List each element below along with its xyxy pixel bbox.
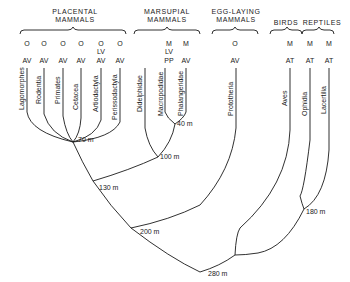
group-label-line: BIRDS — [270, 19, 302, 27]
group-label-line: EGG-LAYING — [208, 8, 264, 16]
brace-reptiles — [302, 27, 334, 34]
taxon-label-didelphidae: Didelphidae — [136, 75, 144, 112]
taxon-label-ophidia: Ophidia — [301, 92, 309, 116]
code-top: M — [178, 40, 194, 48]
group-label-birds: BIRDS — [270, 19, 302, 27]
code-bottom: AV — [112, 57, 128, 65]
code-bottom: AV — [19, 57, 35, 65]
age-label-40m: 40 m — [177, 120, 193, 128]
branch-reptile-to-bird — [235, 209, 304, 255]
code-top: M — [161, 40, 177, 48]
group-label-marsupial: MARSUPIAL MAMMALS — [134, 8, 200, 24]
branch-ophidia — [300, 68, 310, 209]
code-top: O — [73, 40, 89, 48]
group-label-line: MAMMALS — [208, 16, 264, 24]
code-top: O — [227, 40, 243, 48]
code-mid: LV — [93, 48, 109, 56]
brace-birds — [270, 27, 302, 34]
group-label-line: REPTILES — [302, 19, 342, 27]
taxon-label-prototheria: Prototheria — [227, 82, 235, 116]
age-label-280m: 280 m — [208, 270, 227, 278]
group-label-egglaying: EGG-LAYING MAMMALS — [208, 8, 264, 24]
age-label-200m: 200 m — [140, 228, 159, 236]
code-bottom: AV — [55, 57, 71, 65]
branch-placental-to-therian — [73, 142, 93, 181]
taxon-label-macropodidae: Macropodidae — [157, 72, 165, 116]
code-top: O — [36, 40, 52, 48]
code-bottom: PP — [161, 57, 177, 65]
code-top: O — [112, 40, 128, 48]
brace-placental — [20, 27, 126, 34]
taxon-label-rodentia: Rodentia — [35, 76, 43, 104]
code-top: O — [93, 40, 109, 48]
taxon-label-lacertilia: Lacertilia — [320, 86, 328, 114]
group-label-placental: PLACENTAL MAMMALS — [40, 8, 110, 24]
age-label-70m: 70 m — [78, 136, 94, 144]
taxon-label-lagomorphes: Lagomorphes — [18, 67, 26, 110]
code-bottom: AV — [36, 57, 52, 65]
branch-macropodidae — [165, 68, 175, 124]
code-bottom: AV — [227, 57, 243, 65]
code-bottom: AT — [302, 57, 318, 65]
group-label-line: MAMMALS — [40, 16, 110, 24]
taxon-label-aves: Aves — [281, 91, 289, 106]
taxon-label-primates: Primates — [54, 76, 62, 104]
age-label-130m: 130 m — [99, 184, 118, 192]
code-top: M — [302, 40, 318, 48]
code-bottom: AV — [178, 57, 194, 65]
code-bottom: AV — [73, 57, 89, 65]
code-top: M — [321, 40, 337, 48]
code-top: O — [55, 40, 71, 48]
taxon-label-cetacea: Cetacea — [72, 84, 80, 110]
age-label-100m: 100 m — [160, 153, 179, 161]
code-bottom: AT — [282, 57, 298, 65]
branch-lagomorphes — [27, 68, 73, 142]
group-label-line: MARSUPIAL — [134, 8, 200, 16]
taxon-label-phalangeridae: Phalangeridae — [177, 71, 185, 116]
brace-marsupial — [134, 27, 200, 34]
age-label-180m: 180 m — [306, 208, 325, 216]
code-bottom: AT — [321, 57, 337, 65]
group-label-line: MAMMALS — [134, 16, 200, 24]
branch-marsupial-to-therian — [93, 157, 158, 181]
code-top: M — [282, 40, 298, 48]
taxon-label-perissodactyla: Perissodactyla — [111, 74, 119, 120]
code-top: O — [19, 40, 35, 48]
code-mid: LV — [161, 48, 177, 56]
phylogenetic-tree: PLACENTAL MAMMALS MARSUPIAL MAMMALS EGG-… — [0, 0, 350, 282]
taxon-label-artiodactyla: Artiodactyla — [92, 75, 100, 112]
brace-egglaying — [212, 27, 258, 34]
group-label-reptiles: REPTILES — [302, 19, 342, 27]
group-label-line: PLACENTAL — [40, 8, 110, 16]
code-bottom: AV — [93, 57, 109, 65]
